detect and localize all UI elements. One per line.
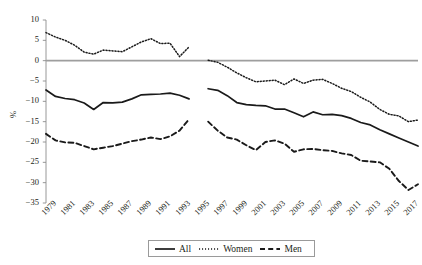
y-tick-label: −10 — [13, 95, 39, 105]
legend-swatch-dashed — [259, 244, 281, 254]
legend-label: Women — [220, 244, 259, 254]
y-tick-label: −5 — [13, 75, 39, 85]
legend-label: All — [176, 244, 198, 254]
y-tick-label: −25 — [13, 156, 39, 166]
y-tick-label: −35 — [13, 197, 39, 207]
series-women — [46, 33, 418, 122]
legend-label: Men — [281, 244, 308, 254]
chart-container: 1050−5−10−15−20−25−30−35%197919811983198… — [0, 0, 422, 265]
y-axis-title: % — [8, 111, 18, 118]
chart-legend: AllWomenMen — [148, 240, 315, 257]
legend-item-all[interactable]: All — [154, 244, 198, 254]
y-tick-label: 0 — [13, 55, 39, 65]
y-tick-label: −20 — [13, 136, 39, 146]
series-men — [46, 119, 418, 190]
y-tick-label: 10 — [13, 14, 39, 24]
legend-item-men[interactable]: Men — [259, 244, 308, 254]
y-axis — [43, 20, 46, 203]
legend-swatch-solid — [154, 244, 176, 254]
y-tick-label: 5 — [13, 34, 39, 44]
y-tick-label: −30 — [13, 177, 39, 187]
chart-plot-area — [0, 0, 422, 265]
legend-swatch-dotted — [198, 244, 220, 254]
legend-item-women[interactable]: Women — [198, 244, 259, 254]
series-all — [46, 89, 418, 146]
